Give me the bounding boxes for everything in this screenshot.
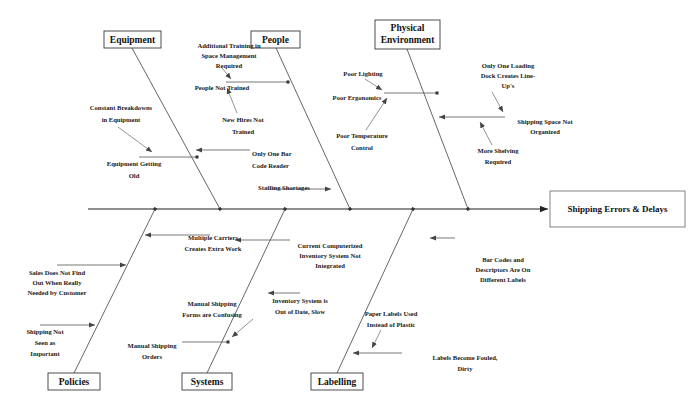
svg-text:Manual Shipping: Manual Shipping (188, 300, 238, 307)
cause-shipping-space-not-organized: Shipping Space Not Organized (517, 118, 573, 135)
cause-poor-ergonomics: Poor Ergonomics (333, 94, 382, 101)
cause-bar-codes-and-descriptors: Bar Codes and Descriptors Are On Differe… (476, 256, 531, 283)
svg-text:Required: Required (485, 158, 512, 165)
twig-paper-labels (372, 330, 381, 348)
svg-text:Orders: Orders (142, 353, 163, 360)
svg-text:Constant Breakdowns: Constant Breakdowns (90, 104, 153, 111)
svg-text:Shipping Space Not: Shipping Space Not (517, 118, 573, 125)
svg-text:Equipment Getting: Equipment Getting (107, 160, 162, 167)
category-box-physical-environment[interactable]: Physical Environment (375, 20, 440, 49)
cause-staffing-shortages: Staffing Shortages (258, 184, 310, 191)
cause-multiple-carriers: Multiple Carriers Creates Extra Work (185, 234, 242, 252)
category-label-labelling: Labelling (318, 377, 357, 387)
svg-text:Old: Old (129, 172, 140, 179)
svg-text:Out of Date, Slow: Out of Date, Slow (275, 308, 325, 315)
bone-labelling (337, 209, 413, 373)
svg-text:Different Labels: Different Labels (480, 276, 526, 283)
cause-new-hires-not-trained: New Hires Not Trained (222, 116, 264, 135)
svg-text:Sales Does Not Find: Sales Does Not Find (29, 269, 86, 276)
category-label-people: People (262, 35, 289, 45)
twig-more-shelving (480, 122, 492, 145)
twig-loading-dock (492, 92, 503, 112)
effect-box[interactable]: Shipping Errors & Delays (550, 191, 685, 227)
svg-text:Important: Important (30, 350, 60, 357)
cause-constant-breakdowns: Constant Breakdowns in Equipment (90, 104, 153, 123)
cause-people-not-trained: People Not Trained (195, 84, 250, 91)
cause-equipment-getting-old: Equipment Getting Old (107, 160, 162, 179)
category-box-policies[interactable]: Policies (48, 373, 100, 390)
svg-text:Manual Shipping: Manual Shipping (128, 342, 178, 349)
svg-text:Additional Training in: Additional Training in (197, 42, 260, 49)
svg-text:Instead of Plastic: Instead of Plastic (367, 321, 415, 328)
twig-poor-lighting (365, 79, 382, 90)
fishbone-diagram: Equipment People Physical Environment Po… (0, 0, 692, 414)
cause-manual-shipping-orders: Manual Shipping Orders (128, 342, 178, 360)
cause-more-shelving-required: More Shelving Required (477, 147, 519, 165)
svg-text:Only One Loading: Only One Loading (482, 62, 535, 69)
svg-text:Current Computerized: Current Computerized (298, 242, 363, 249)
svg-text:Needed by Customer: Needed by Customer (28, 289, 87, 296)
svg-text:in Equipment: in Equipment (102, 116, 141, 123)
cause-current-computerized-inventory: Current Computerized Inventory System No… (298, 242, 363, 269)
svg-text:Forms are Confusing: Forms are Confusing (182, 311, 242, 318)
category-box-systems[interactable]: Systems (182, 373, 232, 390)
twig-additional-training (222, 68, 231, 79)
cause-labels-become-fouled: Labels Become Fouled, Dirty (432, 354, 497, 372)
svg-text:Poor Temperature: Poor Temperature (336, 132, 388, 139)
fishbone-canvas: Equipment People Physical Environment Po… (0, 0, 692, 414)
svg-text:Poor Ergonomics: Poor Ergonomics (333, 94, 382, 101)
cause-manual-shipping-forms: Manual Shipping Forms are Confusing (182, 300, 242, 318)
cause-shipping-not-seen-as-important: Shipping Not Seen as Important (26, 328, 64, 357)
svg-text:Out When Really: Out When Really (33, 279, 83, 286)
svg-text:Only One Bar: Only One Bar (252, 150, 292, 157)
category-box-equipment[interactable]: Equipment (104, 31, 161, 48)
category-label-systems: Systems (191, 377, 224, 387)
svg-text:Bar Codes and: Bar Codes and (482, 256, 524, 263)
bone-equipment (132, 48, 220, 209)
cause-only-one-bar-code-reader: Only One Bar Code Reader (252, 150, 292, 169)
effect-label: Shipping Errors & Delays (567, 204, 668, 214)
svg-text:Paper Labels Used: Paper Labels Used (365, 310, 418, 317)
svg-text:People Not Trained: People Not Trained (195, 84, 250, 91)
cause-only-one-loading-dock: Only One Loading Dock Creates Line- Up's (481, 62, 535, 89)
category-label-policies: Policies (59, 377, 90, 387)
svg-text:New Hires Not: New Hires Not (222, 116, 264, 123)
svg-text:Inventory System Not: Inventory System Not (299, 252, 361, 259)
twig-constant-breakdowns (118, 127, 152, 152)
svg-text:More Shelving: More Shelving (477, 147, 519, 154)
twigs-group (118, 68, 503, 348)
cause-sales-does-not-find-out: Sales Does Not Find Out When Really Need… (28, 269, 87, 296)
category-box-labelling[interactable]: Labelling (311, 373, 363, 390)
twig-manual-forms (232, 319, 253, 337)
svg-text:Required: Required (216, 62, 243, 69)
svg-text:Labels Become Fouled,: Labels Become Fouled, (432, 354, 497, 361)
svg-text:Poor Lighting: Poor Lighting (343, 70, 383, 77)
svg-text:Multiple Carriers: Multiple Carriers (188, 234, 238, 241)
svg-text:Staffing Shortages: Staffing Shortages (258, 184, 310, 191)
category-label-physical-environment-line2: Environment (381, 35, 436, 45)
cause-paper-labels-used: Paper Labels Used Instead of Plastic (365, 310, 418, 328)
cause-poor-temperature-control: Poor Temperature Control (336, 132, 388, 151)
svg-text:Organized: Organized (530, 128, 560, 135)
cause-inventory-system-out-of-date: Inventory System is Out of Date, Slow (272, 297, 328, 315)
twig-poor-temperature (366, 98, 387, 130)
svg-text:Integrated: Integrated (315, 262, 345, 269)
svg-text:Space Management: Space Management (201, 52, 257, 59)
cause-poor-lighting: Poor Lighting (343, 70, 383, 77)
svg-text:Dock Creates Line-: Dock Creates Line- (481, 72, 535, 79)
svg-text:Trained: Trained (232, 128, 255, 135)
svg-text:Control: Control (351, 144, 373, 151)
cause-additional-training: Additional Training in Space Management … (197, 42, 260, 69)
category-label-physical-environment-line1: Physical (391, 23, 425, 33)
svg-text:Up's: Up's (502, 82, 515, 89)
bone-physical-environment (407, 49, 468, 209)
category-label-equipment: Equipment (110, 35, 156, 45)
twig-new-hires (227, 88, 237, 113)
svg-text:Inventory System is: Inventory System is (272, 297, 328, 304)
svg-text:Creates Extra Work: Creates Extra Work (185, 245, 242, 252)
svg-text:Code Reader: Code Reader (252, 162, 289, 169)
svg-text:Seen as: Seen as (35, 339, 56, 346)
svg-text:Shipping Not: Shipping Not (26, 328, 64, 335)
svg-text:Descriptors Are On: Descriptors Are On (476, 266, 531, 273)
svg-text:Dirty: Dirty (457, 365, 473, 372)
